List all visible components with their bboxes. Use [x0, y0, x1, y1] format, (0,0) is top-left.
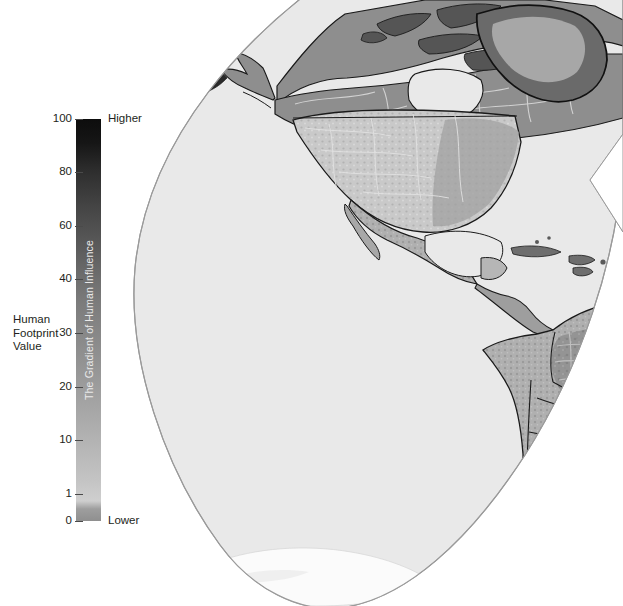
colorbar-tick-label: 10	[59, 434, 72, 446]
colorbar-tick-mark	[75, 440, 83, 441]
colorbar-gradient[interactable]	[76, 119, 101, 521]
colorbar-tick-mark	[75, 521, 83, 522]
human-footprint-map-figure: The Gradient of Human Influence Human Fo…	[0, 0, 623, 606]
colorbar-tick: 0	[0, 514, 83, 528]
colorbar-tick-label: 60	[59, 220, 72, 232]
colorbar-tick-label: 20	[59, 381, 72, 393]
colorbar-tick: 100	[0, 112, 83, 126]
colorbar-tick-mark	[75, 387, 83, 388]
colorbar-tick-label: 40	[59, 273, 72, 285]
colorbar-tick-mark	[75, 119, 83, 120]
colorbar-tick-label: 0	[66, 515, 72, 527]
colorbar-tick-mark	[75, 333, 83, 334]
map-panel[interactable]	[125, 0, 623, 606]
colorbar-tick: 20	[0, 380, 83, 394]
colorbar-tick-mark	[75, 494, 83, 495]
world-map-svg[interactable]	[125, 0, 623, 606]
colorbar-tick-label: 1	[66, 488, 72, 500]
colorbar-low-label: Lower	[108, 515, 139, 527]
colorbar-tick: 1	[0, 487, 83, 501]
colorbar-tick: 40	[0, 272, 83, 286]
colorbar-tick-mark	[75, 279, 83, 280]
legend-panel: The Gradient of Human Influence Human Fo…	[0, 0, 170, 606]
colorbar-tick-label: 80	[59, 166, 72, 178]
colorbar-tick: 60	[0, 219, 83, 233]
colorbar-tick: 10	[0, 433, 83, 447]
colorbar-tick: 80	[0, 165, 83, 179]
legend-axis-title-line-3: Value	[13, 340, 71, 354]
colorbar-high-label: Higher	[108, 113, 142, 125]
colorbar-tick-label: 30	[59, 327, 72, 339]
legend-axis-title-line-1: Human	[13, 313, 71, 327]
colorbar-tick: 30	[0, 326, 83, 340]
colorbar-tick-mark	[75, 172, 83, 173]
colorbar-tick-mark	[75, 226, 83, 227]
colorbar-tick-label: 100	[53, 113, 72, 125]
